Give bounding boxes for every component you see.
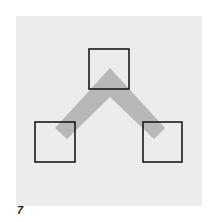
chevron-connector: [55, 68, 165, 139]
diagram-canvas: [0, 0, 210, 222]
figure-label: 7: [17, 204, 23, 216]
